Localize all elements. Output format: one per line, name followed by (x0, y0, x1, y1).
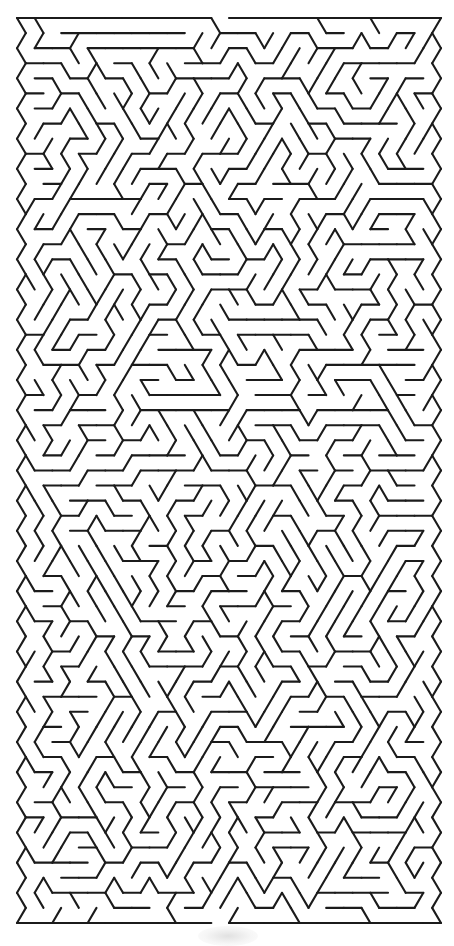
maze-wall (344, 817, 353, 832)
maze-border-wall (432, 335, 441, 350)
maze-wall (61, 139, 70, 154)
maze-wall (220, 305, 229, 320)
maze-wall (97, 93, 106, 108)
maze-wall (167, 109, 176, 124)
maze-wall (370, 757, 379, 772)
maze-wall (52, 501, 61, 516)
maze-wall (61, 63, 70, 78)
maze-wall (114, 305, 123, 320)
maze-wall (335, 757, 344, 772)
maze-wall (256, 832, 265, 847)
maze-wall (370, 93, 379, 108)
maze-wall (132, 124, 141, 139)
maze-wall (388, 410, 397, 425)
maze-wall (97, 380, 106, 395)
maze-border-wall (432, 832, 441, 847)
maze-wall (44, 274, 53, 289)
maze-wall (61, 274, 70, 289)
maze-wall (194, 486, 203, 501)
maze-border-wall (17, 878, 26, 893)
maze-wall (79, 787, 88, 802)
maze-wall (256, 501, 265, 516)
maze-wall (423, 124, 432, 139)
maze-wall (397, 636, 406, 651)
maze-wall (26, 274, 35, 289)
maze-wall (238, 259, 247, 274)
maze-wall (388, 727, 397, 742)
maze-wall (158, 244, 167, 259)
maze-wall (229, 184, 238, 199)
maze-wall (132, 667, 141, 682)
maze-wall (44, 712, 53, 727)
maze-wall (238, 244, 247, 259)
maze-wall (326, 259, 335, 274)
maze-wall (141, 651, 150, 666)
maze-wall (388, 848, 397, 863)
maze-wall (406, 229, 415, 244)
maze-border-wall (17, 48, 26, 63)
maze-wall (326, 274, 335, 289)
maze-wall (388, 651, 397, 666)
maze-wall (264, 516, 273, 531)
maze-wall (88, 305, 97, 320)
maze-wall (35, 244, 44, 259)
maze-wall (114, 667, 123, 682)
maze-wall (97, 124, 106, 139)
maze-wall (353, 516, 362, 531)
maze-wall (158, 636, 167, 651)
maze-wall (415, 697, 424, 712)
maze-border-wall (432, 682, 441, 697)
maze-wall (176, 93, 185, 108)
maze-wall (158, 410, 167, 425)
maze-wall (309, 576, 318, 591)
maze-wall (370, 501, 379, 516)
maze-wall (203, 455, 212, 470)
maze-border-wall (17, 305, 26, 320)
maze-wall (185, 124, 194, 139)
maze-wall (132, 470, 141, 485)
maze-wall (211, 621, 220, 636)
maze-wall (158, 124, 167, 139)
maze-wall (132, 757, 141, 772)
maze-wall (158, 621, 167, 636)
maze-wall (141, 516, 150, 531)
maze-wall (97, 606, 106, 621)
maze-wall (309, 229, 318, 244)
maze-wall (415, 757, 424, 772)
maze-wall (61, 154, 70, 169)
maze-wall (256, 350, 265, 365)
maze-wall (273, 365, 282, 380)
maze-wall (423, 395, 432, 410)
maze-wall (256, 561, 265, 576)
maze-wall (105, 561, 114, 576)
maze-wall (273, 470, 282, 485)
maze-wall (97, 863, 106, 878)
maze-border-wall (17, 636, 26, 651)
maze-wall (70, 184, 79, 199)
maze-wall (388, 274, 397, 289)
maze-wall (247, 274, 256, 289)
maze-wall (370, 486, 379, 501)
maze-wall (105, 320, 114, 335)
maze-wall (256, 621, 265, 636)
maze-wall (88, 908, 97, 923)
maze-wall (35, 501, 44, 516)
maze-wall (370, 636, 379, 651)
maze-wall (317, 486, 326, 501)
maze-wall (132, 531, 141, 546)
maze-wall (362, 667, 371, 682)
maze-wall (388, 380, 397, 395)
maze-wall (52, 531, 61, 546)
maze-wall (415, 817, 424, 832)
maze-wall (379, 395, 388, 410)
maze-wall (70, 335, 79, 350)
maze-wall (344, 305, 353, 320)
maze-wall (88, 727, 97, 742)
maze-border-wall (432, 636, 441, 651)
maze-wall (35, 742, 44, 757)
maze-border-wall (432, 18, 441, 33)
maze-border-wall (17, 455, 26, 470)
maze-wall (229, 832, 238, 847)
maze-wall (167, 591, 176, 606)
maze-wall (335, 109, 344, 124)
